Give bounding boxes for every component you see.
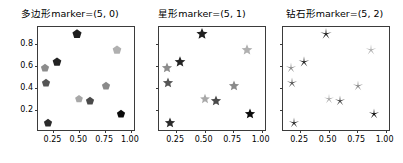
data-point [163, 78, 174, 89]
x-tick-mark [176, 130, 177, 133]
data-point [102, 81, 111, 90]
x-tick-label: 0.50 [195, 135, 213, 144]
x-tick-label: 0.75 [223, 135, 241, 144]
data-point [365, 45, 377, 57]
data-point [85, 97, 94, 106]
data-point [285, 62, 296, 73]
plot-axes [37, 26, 135, 131]
x-tick-mark [357, 130, 358, 133]
data-point [229, 80, 240, 91]
data-point [298, 57, 310, 69]
y-tick-mark [280, 88, 283, 89]
y-tick-mark [280, 110, 283, 111]
x-tick-label: 0.75 [347, 135, 365, 144]
x-tick-mark [233, 130, 234, 133]
y-tick-label: 0.6 [9, 60, 33, 69]
x-tick-label: 0.75 [95, 135, 113, 144]
data-point [241, 45, 253, 57]
scatter-marker-figure: 多边形marker=(5, 0)0.250.500.751.000.20.40.… [0, 0, 403, 163]
y-tick-mark [35, 110, 38, 111]
y-tick-mark [156, 88, 159, 89]
data-point [174, 57, 186, 69]
x-tick-mark [105, 130, 106, 133]
y-tick-mark [35, 44, 38, 45]
data-point [323, 94, 334, 105]
plot-area [283, 27, 389, 130]
x-tick-mark [131, 130, 132, 133]
x-tick-mark [79, 130, 80, 133]
data-point [334, 96, 345, 107]
y-tick-mark [35, 66, 38, 67]
y-tick-label: 0.4 [9, 82, 33, 91]
x-tick-label: 0.25 [166, 135, 184, 144]
data-point [320, 28, 332, 40]
x-tick-mark [386, 130, 387, 133]
x-tick-mark [53, 130, 54, 133]
y-tick-mark [156, 110, 159, 111]
y-tick-mark [35, 88, 38, 89]
data-point [196, 28, 208, 40]
y-tick-label: 0.8 [9, 38, 33, 47]
data-point [52, 58, 62, 68]
data-point [353, 80, 364, 91]
data-point [287, 78, 298, 89]
x-tick-mark [300, 130, 301, 133]
y-tick-mark [156, 44, 159, 45]
plot-axes [158, 26, 266, 131]
data-point [161, 62, 172, 73]
y-tick-label: 0.2 [9, 105, 33, 114]
data-point [245, 109, 256, 120]
x-tick-mark [262, 130, 263, 133]
plot-area [159, 27, 265, 130]
panel-title: 钻石形marker=(5, 2) [266, 8, 403, 19]
scatter-panel-2: 星形marker=(5, 1)0.250.500.751.00 [136, 0, 268, 163]
data-point [199, 94, 210, 105]
y-tick-mark [156, 66, 159, 67]
x-tick-mark [205, 130, 206, 133]
data-point [113, 46, 123, 56]
scatter-panel-3: 钻石形marker=(5, 2)0.250.500.751.00 [266, 0, 403, 163]
x-tick-label: 1.00 [376, 135, 394, 144]
data-point [72, 29, 82, 39]
x-tick-label: 0.50 [69, 135, 87, 144]
data-point [369, 109, 380, 120]
y-tick-mark [280, 44, 283, 45]
data-point [44, 119, 53, 128]
x-tick-label: 0.50 [319, 135, 337, 144]
data-point [116, 110, 125, 119]
x-tick-label: 0.25 [44, 135, 62, 144]
plot-axes [282, 26, 390, 131]
data-point [210, 96, 221, 107]
x-tick-mark [329, 130, 330, 133]
panel-title: 多边形marker=(5, 0) [2, 8, 138, 19]
data-point [41, 63, 50, 72]
y-tick-mark [280, 66, 283, 67]
data-point [75, 95, 84, 104]
panel-title: 星形marker=(5, 1) [136, 8, 268, 19]
data-point [165, 118, 176, 129]
x-tick-label: 0.25 [290, 135, 308, 144]
data-point [42, 79, 51, 88]
plot-area [38, 27, 134, 130]
scatter-panel-1: 多边形marker=(5, 0)0.250.500.751.000.20.40.… [2, 0, 138, 163]
data-point [289, 118, 300, 129]
